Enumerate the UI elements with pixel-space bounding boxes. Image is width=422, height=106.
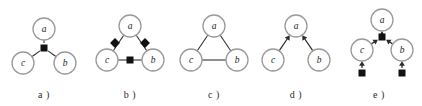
edge-a-to-b: [220, 35, 230, 50]
node-c[interactable]: c: [12, 52, 34, 74]
panel-a: acba ): [0, 0, 88, 106]
factor-square-0[interactable]: [110, 38, 120, 48]
node-label-b: b: [317, 55, 322, 65]
factor-square-1[interactable]: [140, 38, 150, 48]
factor-square-0[interactable]: [41, 45, 48, 52]
node-b[interactable]: b: [308, 49, 330, 71]
edge-b-to-a: [304, 38, 313, 51]
edge-square-0-to-b: [48, 51, 56, 57]
node-c[interactable]: c: [351, 39, 373, 61]
node-label-a: a: [380, 15, 385, 25]
panel-d: acbd ): [256, 0, 336, 106]
factor-square-0[interactable]: [379, 34, 386, 41]
node-a[interactable]: a: [119, 15, 141, 37]
panel-c: acbc ): [172, 0, 256, 106]
node-a[interactable]: a: [203, 15, 225, 37]
panel-e-caption: e ): [336, 89, 422, 100]
node-b[interactable]: b: [142, 49, 164, 71]
edge-square-0-to-c: [32, 51, 40, 57]
factor-square-2[interactable]: [127, 57, 134, 64]
figure-graph-variants: acba )acbb )acbc )acbd )acbe ): [0, 0, 422, 106]
node-a[interactable]: a: [33, 18, 55, 40]
panel-a-caption: a ): [0, 89, 88, 100]
panel-b: acbb ): [88, 0, 172, 106]
node-a[interactable]: a: [285, 15, 307, 37]
node-c[interactable]: c: [262, 49, 284, 71]
node-label-b: b: [400, 45, 405, 55]
node-b[interactable]: b: [391, 39, 413, 61]
panel-c-caption: c ): [172, 89, 256, 100]
node-label-b: b: [151, 55, 156, 65]
node-label-a: a: [212, 21, 217, 31]
node-c[interactable]: c: [96, 49, 118, 71]
edge-c-to-a: [279, 38, 288, 51]
node-label-b: b: [235, 55, 240, 65]
panel-e: acbe ): [336, 0, 422, 106]
factor-square-1[interactable]: [359, 70, 366, 77]
node-a[interactable]: a: [371, 9, 393, 31]
node-b[interactable]: b: [226, 49, 248, 71]
panel-d-caption: d ): [256, 89, 336, 100]
panel-b-caption: b ): [88, 89, 172, 100]
node-label-a: a: [294, 21, 299, 31]
node-label-a: a: [128, 21, 133, 31]
edge-a-to-c: [197, 35, 207, 50]
node-b[interactable]: b: [54, 52, 76, 74]
factor-square-2[interactable]: [399, 70, 406, 77]
node-label-a: a: [42, 24, 47, 34]
node-c[interactable]: c: [180, 49, 202, 71]
node-label-b: b: [63, 58, 68, 68]
arrowhead-square-1-to-c: [359, 61, 365, 66]
arrowhead-square-2-to-b: [399, 61, 405, 66]
